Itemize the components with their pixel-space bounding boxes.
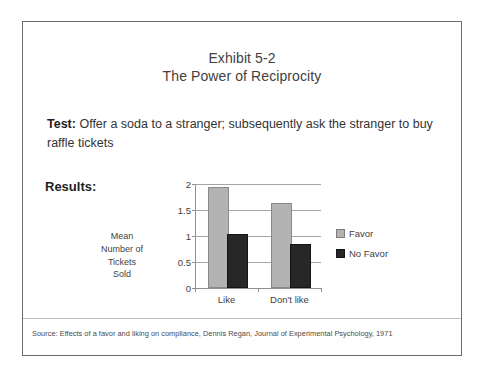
x-axis-category-label: Don't like: [270, 294, 309, 305]
x-tick-mark: [258, 288, 259, 292]
y-axis-title-line-4: Sold: [83, 268, 161, 281]
y-tick-label: 0: [186, 283, 191, 294]
bar-no-favor-don-t-like: [290, 244, 311, 288]
y-tick-mark: [192, 262, 195, 263]
x-axis-category-label: Like: [218, 294, 235, 305]
y-tick-mark: [192, 210, 195, 211]
y-tick-label: 2: [186, 179, 191, 190]
bar-favor-don-t-like: [271, 203, 292, 288]
y-axis-title: Mean Number of Tickets Sold: [83, 230, 161, 281]
bar-chart: Mean Number of Tickets Sold 00.511.52Lik…: [83, 180, 443, 315]
test-label: Test:: [47, 117, 76, 131]
y-tick-mark: [192, 184, 195, 185]
legend-label-no-favor: No Favor: [349, 248, 388, 259]
test-text: Offer a soda to a stranger; subsequently…: [47, 117, 433, 150]
legend-label-favor: Favor: [349, 228, 373, 239]
title-line-2: The Power of Reciprocity: [23, 67, 461, 85]
legend-swatch-no-favor-icon: [336, 249, 345, 258]
source-divider: [23, 318, 461, 319]
y-axis-title-line-2: Number of: [83, 243, 161, 256]
y-tick-label: 1.5: [178, 205, 191, 216]
slide-frame: Exhibit 5-2 The Power of Reciprocity Tes…: [22, 21, 462, 356]
y-axis-title-line-1: Mean: [83, 230, 161, 243]
legend-swatch-favor-icon: [336, 229, 345, 238]
chart-legend: Favor No Favor: [336, 228, 388, 268]
y-tick-mark: [192, 236, 195, 237]
legend-item-no-favor: No Favor: [336, 248, 388, 259]
source-citation: Source: Effects of a favor and liking on…: [32, 329, 393, 338]
x-tick-mark: [321, 288, 322, 292]
y-axis-title-line-3: Tickets: [83, 256, 161, 269]
plot-area: 00.511.52LikeDon't like: [195, 184, 321, 289]
y-tick-label: 1: [186, 231, 191, 242]
gridline: [195, 184, 321, 185]
bar-no-favor-like: [227, 234, 248, 288]
title-line-1: Exhibit 5-2: [23, 49, 461, 67]
y-tick-label: 0.5: [178, 257, 191, 268]
x-tick-mark: [195, 288, 196, 292]
slide-title: Exhibit 5-2 The Power of Reciprocity: [23, 49, 461, 86]
test-paragraph: Test: Offer a soda to a stranger; subseq…: [47, 115, 447, 153]
bar-favor-like: [208, 187, 229, 288]
legend-item-favor: Favor: [336, 228, 388, 239]
